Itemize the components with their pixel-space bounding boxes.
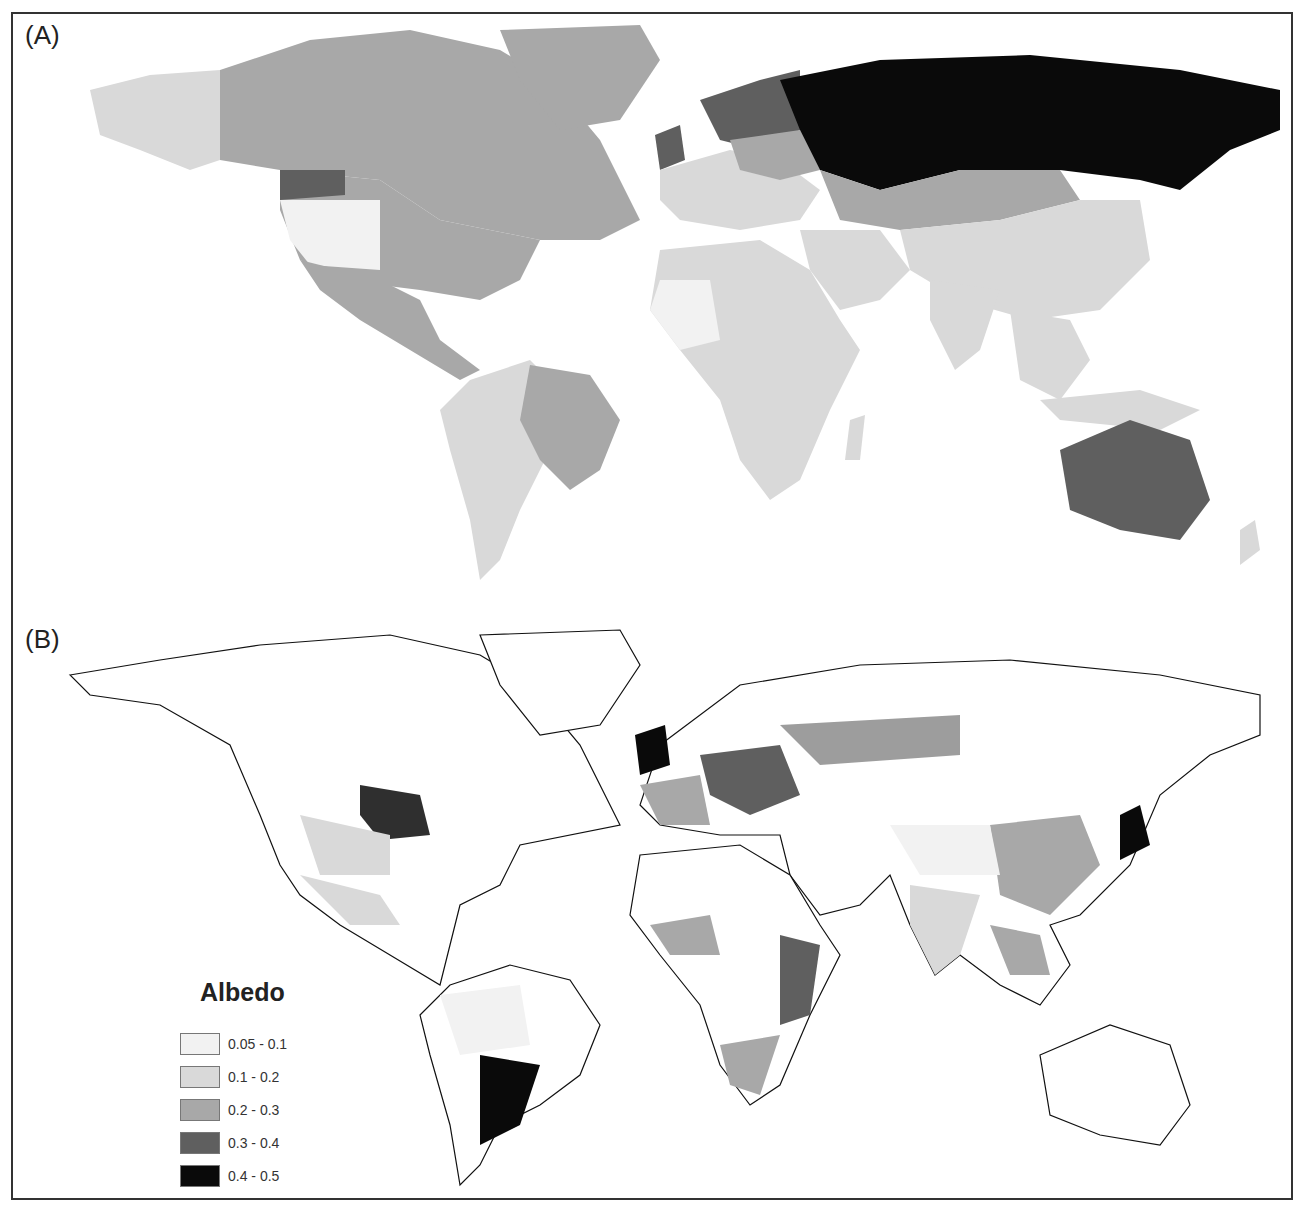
legend-item: 0.1 - 0.2 [180,1060,340,1093]
albedo-legend: Albedo 0.05 - 0.1 0.1 - 0.2 0.2 - 0.3 0.… [180,978,340,1192]
legend-swatch [180,1165,220,1187]
panel-b-label: (B) [25,624,60,655]
region-russia [780,55,1280,190]
legend-label: 0.1 - 0.2 [228,1069,279,1085]
legend-item: 0.3 - 0.4 [180,1126,340,1159]
map-panel-a [80,20,1290,590]
grid-east-africa [780,935,820,1025]
legend-item: 0.05 - 0.1 [180,1027,340,1060]
legend-swatch [180,1033,220,1055]
region-new-zealand [1240,520,1260,565]
outline-australia [1040,1025,1190,1145]
region-india [930,280,1000,370]
legend-swatch [180,1066,220,1088]
region-indonesia [1040,390,1200,430]
region-australia [1060,420,1210,540]
panel-a-label: (A) [25,20,60,51]
legend-label: 0.4 - 0.5 [228,1168,279,1184]
region-madagascar [845,415,865,460]
region-usa-southwest [280,200,380,270]
region-uk [655,125,685,170]
region-west-africa [650,280,720,350]
legend-title: Albedo [200,978,340,1007]
legend-label: 0.2 - 0.3 [228,1102,279,1118]
region-southeast-asia [1010,310,1090,400]
legend-item: 0.2 - 0.3 [180,1093,340,1126]
legend-swatch [180,1099,220,1121]
legend-label: 0.3 - 0.4 [228,1135,279,1151]
legend-swatch [180,1132,220,1154]
region-alaska [90,70,220,170]
legend-item: 0.4 - 0.5 [180,1159,340,1192]
region-usa-west [280,170,345,200]
legend-label: 0.05 - 0.1 [228,1036,287,1052]
